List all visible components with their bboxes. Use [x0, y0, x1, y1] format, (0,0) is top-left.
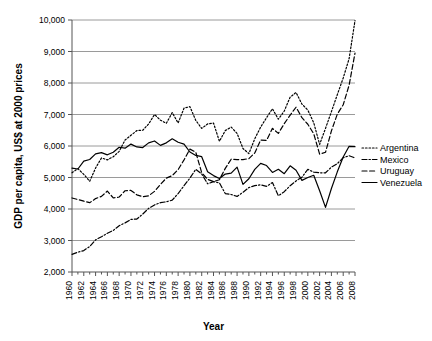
- y-tick-label: 9,000: [44, 47, 66, 57]
- x-tick-label: 1988: [229, 281, 239, 300]
- series-line-uruguay: [72, 53, 355, 203]
- y-tick-label: 5,000: [44, 173, 66, 183]
- x-tick-label: 1986: [217, 281, 227, 300]
- y-tick-label: 8,000: [44, 78, 66, 88]
- x-tick-label: 2004: [323, 281, 333, 300]
- x-tick-label: 1990: [241, 281, 251, 300]
- x-tick-label: 1998: [288, 281, 298, 300]
- y-tick-label: 6,000: [44, 141, 66, 151]
- series-line-mexico: [72, 156, 355, 255]
- x-tick-label: 1974: [147, 281, 157, 300]
- x-tick-label: 1962: [76, 281, 86, 300]
- gridlines: [72, 20, 355, 241]
- chart-legend: ArgentinaMexicoUruguayVenezuela: [362, 143, 422, 188]
- x-tick-label: 1980: [182, 281, 192, 300]
- x-tick-label: 1984: [206, 281, 216, 300]
- x-tick-label: 1972: [135, 281, 145, 300]
- legend-label-argentina: Argentina: [380, 143, 419, 153]
- x-tick-label: 1964: [88, 281, 98, 300]
- x-tick-label: 2002: [312, 281, 322, 300]
- legend-label-venezuela: Venezuela: [380, 178, 422, 188]
- x-tick-label: 1966: [99, 281, 109, 300]
- chart-canvas: 2,0003,0004,0005,0006,0007,0008,0009,000…: [0, 0, 432, 341]
- x-tick-label: 2000: [300, 281, 310, 300]
- x-tick-label: 1994: [264, 281, 274, 300]
- x-tick-label: 1982: [194, 281, 204, 300]
- series-line-venezuela: [72, 139, 355, 208]
- x-tick-label: 1996: [276, 281, 286, 300]
- y-tick-label: 10,000: [39, 15, 65, 25]
- x-tick-label: 1992: [253, 281, 263, 300]
- x-axis-title: Year: [203, 321, 224, 332]
- x-axis-ticks: 1960196219641966196819701972197419761978…: [64, 272, 357, 300]
- legend-label-mexico: Mexico: [380, 155, 409, 165]
- x-tick-label: 1978: [170, 281, 180, 300]
- x-tick-label: 2008: [347, 281, 357, 300]
- data-series-group: [72, 21, 355, 255]
- x-tick-label: 1976: [158, 281, 168, 300]
- y-tick-label: 7,000: [44, 110, 66, 120]
- x-tick-label: 1968: [111, 281, 121, 300]
- x-tick-label: 1970: [123, 281, 133, 300]
- y-tick-label: 4,000: [44, 204, 66, 214]
- x-tick-label: 2006: [335, 281, 345, 300]
- x-tick-label: 1960: [64, 281, 74, 300]
- gdp-per-capita-line-chart: 2,0003,0004,0005,0006,0007,0008,0009,000…: [0, 0, 432, 341]
- legend-label-uruguay: Uruguay: [380, 166, 415, 176]
- y-tick-label: 2,000: [44, 267, 66, 277]
- y-axis-title: GDP per capita, US$ at 2000 prices: [13, 63, 24, 229]
- y-tick-label: 3,000: [44, 236, 66, 246]
- y-axis-ticks: 2,0003,0004,0005,0006,0007,0008,0009,000…: [39, 15, 72, 277]
- series-line-argentina: [72, 21, 355, 182]
